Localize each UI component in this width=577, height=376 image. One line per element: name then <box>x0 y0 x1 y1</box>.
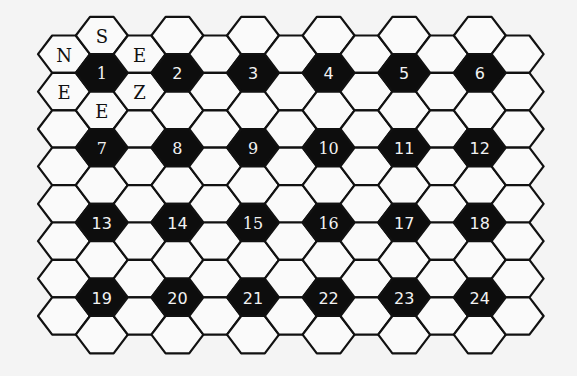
cell-number: 7 <box>97 139 107 158</box>
cell-number: 9 <box>248 139 258 158</box>
cell-letter: E <box>57 82 70 103</box>
cell-letter: S <box>96 26 108 47</box>
cell-number: 5 <box>399 64 409 83</box>
cell-letter: Z <box>133 82 146 103</box>
cell-number: 10 <box>318 139 338 158</box>
cell-number: 17 <box>394 214 414 233</box>
cell-letter: E <box>133 45 146 66</box>
cell-number: 20 <box>167 289 187 308</box>
cell-number: 8 <box>172 139 182 158</box>
cell-number: 12 <box>470 139 490 158</box>
cell-number: 14 <box>167 214 187 233</box>
cell-number: 13 <box>92 214 112 233</box>
cell-number: 15 <box>243 214 263 233</box>
cell-number: 19 <box>92 289 112 308</box>
cell-number: 2 <box>172 64 182 83</box>
cell-number: 23 <box>394 289 414 308</box>
cell-number: 6 <box>475 64 485 83</box>
cell-number: 11 <box>394 139 414 158</box>
cell-number: 18 <box>470 214 490 233</box>
cell-number: 1 <box>97 64 107 83</box>
hex-grid <box>38 17 544 354</box>
cell-number: 22 <box>318 289 338 308</box>
cell-letter: N <box>56 45 72 66</box>
cell-number: 4 <box>324 64 334 83</box>
cell-number: 21 <box>243 289 263 308</box>
cell-letter: E <box>95 101 108 122</box>
cell-number: 3 <box>248 64 258 83</box>
cell-number: 24 <box>470 289 490 308</box>
cell-number: 16 <box>318 214 338 233</box>
hex-puzzle-board: NES1E71319EZ2814203915214101622511172361… <box>0 0 577 376</box>
